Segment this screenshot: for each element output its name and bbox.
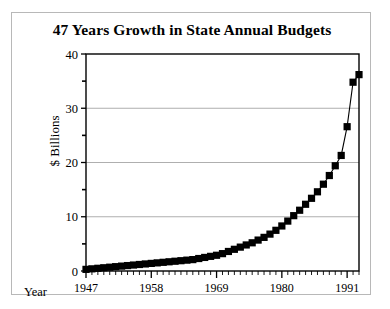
svg-text:0: 0 <box>72 265 78 279</box>
svg-text:1991: 1991 <box>335 281 359 295</box>
y-tick-labels: 403020100 <box>66 48 79 279</box>
svg-text:1969: 1969 <box>205 281 229 295</box>
svg-text:30: 30 <box>66 102 79 116</box>
svg-text:20: 20 <box>66 156 79 170</box>
svg-text:10: 10 <box>66 210 79 224</box>
svg-text:1947: 1947 <box>74 281 98 295</box>
gridlines <box>86 108 359 217</box>
data-line <box>86 75 359 270</box>
svg-text:1980: 1980 <box>270 281 294 295</box>
chart-frame: 47 Years Growth in State Annual Budgets … <box>11 12 371 295</box>
svg-text:1958: 1958 <box>139 281 163 295</box>
x-tick-labels: 19471958196919801991 <box>74 281 359 295</box>
data-markers <box>82 71 362 273</box>
chart-svg: 403020100 19471958196919801991 <box>12 13 372 296</box>
x-axis-ticks <box>86 271 359 278</box>
plot-area: 403020100 19471958196919801991 <box>12 13 372 296</box>
y-axis-ticks <box>81 54 86 271</box>
svg-text:40: 40 <box>66 48 79 62</box>
